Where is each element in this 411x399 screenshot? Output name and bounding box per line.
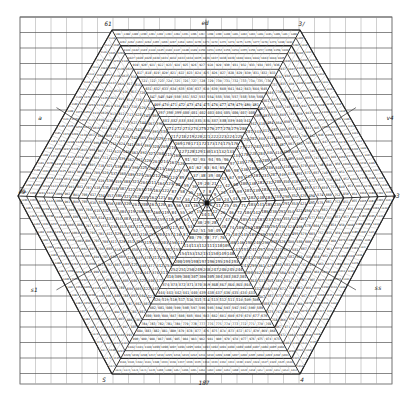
cell-number: 1254 (92, 95, 99, 99)
cell-number: 1278 (261, 41, 268, 44)
cell-number: 744 (301, 134, 307, 138)
cell-number: 895 (89, 247, 95, 251)
cell-number: 328 (152, 144, 160, 149)
cell-number: 1384 (105, 59, 112, 62)
cell-number: 1422 (352, 132, 359, 135)
cell-number: 1303 (377, 199, 384, 202)
cell-number: 528 (119, 240, 126, 244)
cell-number: 1450 (305, 349, 312, 352)
cell-number: 970 (289, 317, 295, 321)
cell-number: 949 (331, 155, 337, 159)
cell-number: 1122 (47, 191, 54, 195)
cell-number: 1111 (88, 278, 95, 282)
cell-number: 1310 (347, 255, 354, 258)
cell-number: 1041 (244, 56, 251, 60)
cell-number: 74 (229, 225, 235, 230)
cell-number: 447 (144, 271, 151, 275)
cell-number: 287 (270, 172, 278, 177)
cell-number: 237 (266, 217, 274, 222)
cell-number: 295 (266, 232, 274, 237)
cell-number: 171 (191, 141, 199, 146)
cell-number: 902 (64, 192, 70, 196)
cell-number: 915 (118, 97, 124, 101)
cell-number: 959 (335, 231, 341, 235)
cell-number: 1170 (326, 118, 333, 122)
cell-number: 988 (149, 337, 155, 341)
cell-number: 65 (220, 165, 226, 170)
cell-number: 753 (334, 200, 340, 204)
cell-number: 667 (301, 247, 307, 251)
cell-number: 141 (257, 202, 265, 207)
cell-number: 332 (170, 118, 177, 123)
cell-number: 1057 (330, 140, 337, 144)
cell-number: 371 (187, 282, 195, 287)
cell-number: 378 (144, 255, 152, 260)
cell-number: 1069 (343, 231, 350, 235)
cell-number: 1147 (174, 48, 181, 52)
cell-number: 489 (288, 157, 295, 161)
cell-number: 584 (280, 271, 286, 275)
cell-number: 1375 (67, 125, 74, 128)
cell-number: 207 (145, 209, 153, 214)
cell-number: 755 (326, 216, 332, 220)
cell-number: 559 (249, 95, 255, 99)
cell-number: 1472 (132, 369, 139, 372)
cell-number: 389 (128, 172, 136, 177)
cell-number: 751 (330, 185, 336, 189)
cell-number: 1100 (144, 345, 151, 349)
cell-number: 455 (111, 209, 118, 213)
cell-number: 1004 (72, 231, 79, 235)
cell-number: 426 (279, 240, 287, 244)
cell-number: 392 (140, 150, 147, 155)
cell-number: 997 (102, 286, 108, 290)
cell-number: 650 (284, 120, 290, 124)
cell-number: 565 (280, 128, 286, 132)
cell-number: 546 (148, 107, 155, 111)
cell-number: 938 (285, 74, 291, 78)
cell-number: 835 (280, 82, 286, 86)
cell-number: 781 (166, 322, 172, 326)
cell-number: 14 (201, 212, 207, 217)
cell-number: 1067 (351, 215, 358, 219)
cell-number: 1229 (84, 285, 91, 289)
cell-number: 502 (279, 256, 286, 260)
cell-number: 1207 (232, 353, 239, 357)
cell-number: 321 (124, 194, 132, 199)
cell-number: 1331 (228, 361, 235, 364)
cell-number: 25 (224, 203, 230, 208)
cell-number: 1449 (310, 341, 317, 344)
cell-number: 607 (127, 271, 133, 275)
cell-number: 1258 (109, 66, 116, 70)
cell-number: 1327 (261, 361, 268, 364)
cell-number: 645 (261, 87, 267, 91)
cell-number: 307 (191, 274, 199, 279)
cell-number: 118 (166, 217, 174, 222)
cell-number: 622 (111, 157, 117, 161)
cell-number: 303 (223, 274, 231, 279)
cell-number: 1453 (291, 369, 298, 372)
cell-number: 760 (305, 255, 311, 259)
cell-number: 1421 (348, 125, 355, 128)
cell-number: 1127 (67, 155, 74, 159)
cell-number: 314 (148, 247, 156, 252)
cell-number: 538 (115, 165, 122, 169)
cell-number: 618 (94, 186, 100, 190)
cell-number: 1441 (343, 278, 350, 281)
cell-number: 267 (152, 159, 160, 164)
diagram-canvas: 1234567891011121314151617181920212223242… (0, 0, 411, 399)
cell-number: 17 (193, 197, 199, 202)
cell-number: 1478 (96, 341, 103, 344)
cell-number: 1039 (228, 56, 235, 60)
cell-number: 197 (199, 259, 207, 264)
cell-number: 1365 (30, 199, 37, 202)
cell-number: 497 (300, 217, 307, 221)
cell-number: 950 (335, 162, 341, 166)
cell-number: 1240 (38, 199, 45, 203)
cell-number: 1206 (240, 353, 247, 357)
cell-number: 829 (237, 71, 243, 75)
cell-number: 1306 (364, 223, 371, 226)
cell-number: 458 (111, 187, 119, 191)
cell-number: 1058 (334, 147, 341, 151)
cell-number: 1209 (215, 353, 222, 357)
cell-number: 801 (73, 193, 79, 197)
